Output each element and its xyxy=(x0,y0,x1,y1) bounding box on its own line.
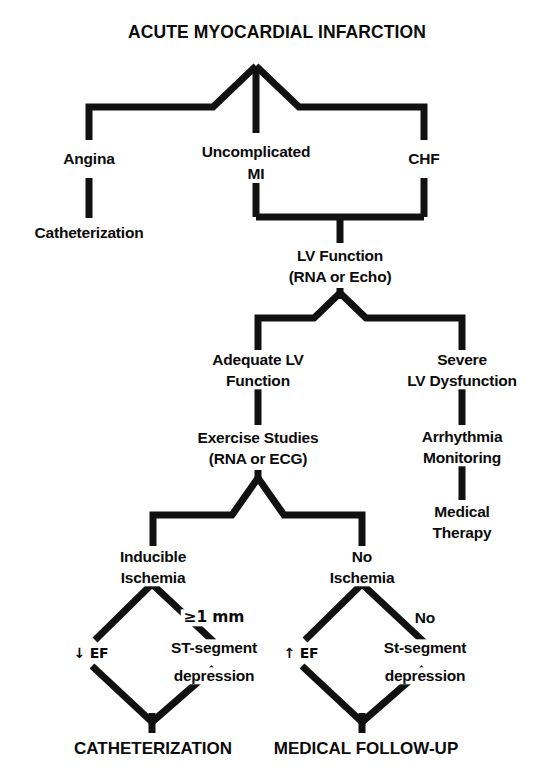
node-inducible-ischemia-line1: Inducible xyxy=(117,548,189,565)
edge-exercise-split-left xyxy=(153,478,258,546)
node-lv-function-line1: LV Function xyxy=(294,247,386,264)
node-root-title: ACUTE MYOCARDIAL INFARCTION xyxy=(124,23,430,43)
edge-left-diamond-lower-left xyxy=(92,666,152,722)
node-st-depression-line1: ≥1 mm xyxy=(181,609,247,626)
edge-lv-split-right xyxy=(340,293,462,350)
node-no-st-depression-line1: No xyxy=(412,609,438,626)
node-no-ischemia-line2: Ischemia xyxy=(327,569,398,586)
node-chf: CHF xyxy=(405,150,442,167)
node-angina: Angina xyxy=(60,150,117,167)
edge-lv-split-left xyxy=(258,293,340,350)
edge-left-diamond-upper-left xyxy=(95,584,152,640)
node-adequate-lv-line2: Function xyxy=(223,372,293,389)
node-severe-lv-line1: Severe xyxy=(434,351,490,368)
edge-root-apex-right xyxy=(256,66,424,140)
node-terminal-medical-followup: MEDICAL FOLLOW-UP xyxy=(271,739,461,758)
node-low-ef: ↓ EF xyxy=(71,646,112,662)
edge-right-diamond-lower-left xyxy=(302,666,362,722)
edge-exercise-split-right xyxy=(258,478,362,546)
node-catheterization-angina: Catheterization xyxy=(32,224,147,241)
node-st-depression-line2: ST-segment xyxy=(168,639,260,656)
flowchart-canvas: ACUTE MYOCARDIAL INFARCTION Angina Uncom… xyxy=(0,0,554,778)
edge-root-apex-left xyxy=(89,66,256,140)
node-arrhythmia-line1: Arrhythmia xyxy=(419,428,506,445)
node-exercise-studies-line2: (RNA or ECG) xyxy=(206,450,311,467)
node-lv-function-line2: (RNA or Echo) xyxy=(286,268,395,285)
node-uncomplicated-mi-line2: MI xyxy=(245,165,268,182)
node-terminal-catheterization: CATHETERIZATION xyxy=(71,739,235,758)
node-exercise-studies-line1: Exercise Studies xyxy=(195,429,322,446)
node-st-depression-line3: depression xyxy=(171,667,258,684)
node-no-st-depression-line3: depression xyxy=(382,667,469,684)
node-medical-therapy-line2: Therapy xyxy=(430,524,495,541)
node-uncomplicated-mi-line1: Uncomplicated xyxy=(199,143,314,160)
node-adequate-lv-line1: Adequate LV xyxy=(209,351,306,368)
node-high-ef: ↑ EF xyxy=(281,646,322,662)
edge-right-diamond-upper-left xyxy=(305,584,362,640)
node-inducible-ischemia-line2: Ischemia xyxy=(118,569,189,586)
node-no-ischemia-line1: No xyxy=(349,548,375,565)
node-severe-lv-line2: LV Dysfunction xyxy=(404,372,520,389)
node-medical-therapy-line1: Medical xyxy=(431,503,492,520)
node-arrhythmia-line2: Monitoring xyxy=(420,449,504,466)
node-no-st-depression-line2: St-segment xyxy=(381,639,469,656)
